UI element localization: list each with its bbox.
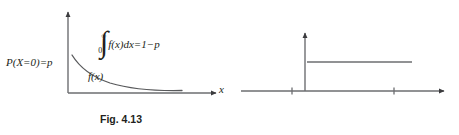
density-function-label: f(x) (88, 71, 103, 82)
point-mass-label: P(X=0)=p (6, 57, 53, 68)
x-axis-label: x (219, 84, 224, 95)
figure-4-14-graphic (230, 0, 459, 135)
integral-expression: f(x)dx=1−p (108, 38, 160, 50)
integral-upper-limit: ∞ (101, 32, 106, 40)
figure-4-13: P(X=0)=p ∫∞0f(x)dx=1−p f(x) x Fig. 4.13 (0, 0, 230, 135)
figure-canvas: P(X=0)=p ∫∞0f(x)dx=1−p f(x) x Fig. 4.13 (0, 0, 459, 135)
integral-lower-limit: 0 (98, 46, 102, 55)
figure-4-14: f(x) x x=a x=b Fig. 4.14 (230, 0, 459, 135)
integral-annotation: ∫∞0f(x)dx=1−p (100, 22, 169, 52)
figure-caption-4-13: Fig. 4.13 (100, 113, 142, 125)
